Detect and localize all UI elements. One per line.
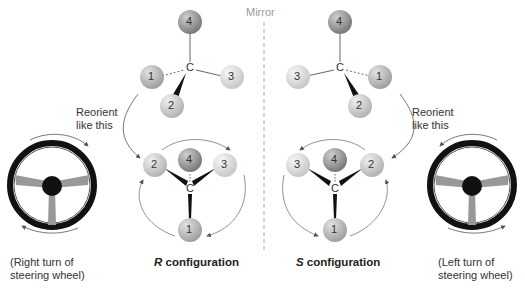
atom-label: 2 bbox=[151, 158, 157, 171]
atom-label: 3 bbox=[228, 70, 234, 83]
atom-label: 2 bbox=[356, 99, 362, 112]
atom-label: 4 bbox=[186, 15, 192, 28]
s-configuration-label: S configuration bbox=[296, 256, 380, 269]
reorient-label-right: Reorient like this bbox=[412, 106, 454, 132]
carbon-label: C bbox=[186, 61, 194, 74]
atom-label: 4 bbox=[331, 153, 337, 166]
atom-label: 2 bbox=[168, 99, 174, 112]
right-wheel-caption: (Left turn of steering wheel) bbox=[438, 256, 513, 282]
stereochemistry-diagram bbox=[0, 0, 525, 296]
atom-label: 2 bbox=[368, 158, 374, 171]
atom-label: 3 bbox=[221, 158, 227, 171]
atom-label: 1 bbox=[148, 70, 154, 83]
reorient-label-left: Reorient like this bbox=[76, 106, 118, 132]
left-wheel-caption: (Right turn of steering wheel) bbox=[10, 256, 85, 282]
reorient-arrow-left bbox=[123, 94, 140, 158]
steering-wheel-left bbox=[10, 134, 94, 233]
reorient-arrow-right bbox=[392, 94, 414, 158]
carbon-label: C bbox=[336, 61, 344, 74]
atom-label: 1 bbox=[331, 223, 337, 236]
atom-label: 3 bbox=[294, 158, 300, 171]
atom-label: 1 bbox=[186, 223, 192, 236]
steering-wheel-right bbox=[430, 134, 514, 233]
mirror-label: Mirror bbox=[246, 6, 275, 19]
carbon-label: C bbox=[331, 182, 339, 195]
atom-label: 4 bbox=[336, 15, 342, 28]
atom-label: 3 bbox=[294, 70, 300, 83]
atom-label: 1 bbox=[376, 70, 382, 83]
carbon-label: C bbox=[186, 182, 194, 195]
atom-label: 4 bbox=[186, 153, 192, 166]
r-configuration-label: R configuration bbox=[154, 256, 239, 269]
